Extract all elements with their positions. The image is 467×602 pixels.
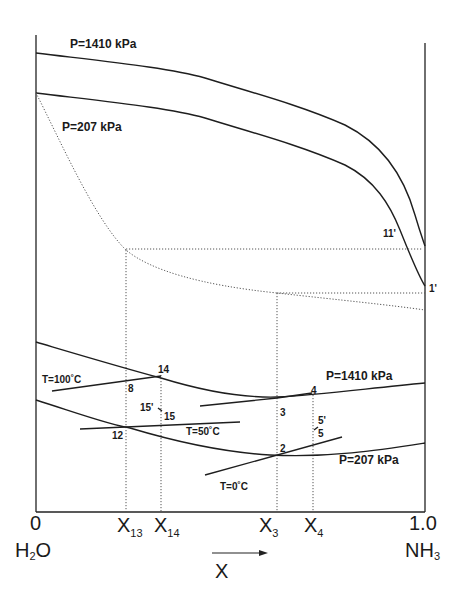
- svg-text:H2O: H2O: [15, 539, 51, 562]
- label-isotherm-0c: T=0˚C: [220, 481, 248, 492]
- label-isotherm-100c: T=100˚C: [42, 374, 81, 385]
- label-liquid-1410kpa: P=1410 kPa: [326, 369, 393, 383]
- state-point-3: 3: [280, 407, 286, 418]
- plot-frame: [36, 35, 425, 512]
- state-point-4: 4: [311, 385, 317, 396]
- isotherm-50c-right: [200, 393, 312, 406]
- species-label-water: H2O: [15, 539, 51, 562]
- vapor-curve-1410kpa: [36, 53, 425, 246]
- state-point-14: 14: [158, 364, 170, 375]
- label-isotherm-50c: T=50˚C: [186, 426, 220, 437]
- composition-tick-x14: X14: [154, 514, 180, 539]
- label-liquid-207kpa: P=207 kPa: [339, 453, 399, 467]
- x-axis-direction-arrow: [212, 550, 268, 556]
- state-point-5: 5: [318, 428, 324, 439]
- state-point-15: 15: [164, 411, 176, 422]
- state-point-2: 2: [280, 443, 286, 454]
- species-label-ammonia: NH3: [405, 539, 440, 562]
- x-axis-tick-0: 0: [30, 512, 41, 534]
- composition-tick-x13: X13: [117, 514, 143, 539]
- svg-text:NH3: NH3: [405, 539, 440, 562]
- svg-text:X14: X14: [154, 514, 180, 539]
- composition-tick-x3: X3: [259, 514, 278, 539]
- svg-text:X13: X13: [117, 514, 143, 539]
- ammonia-water-enthalpy-diagram: P=1410 kPa P=207 kPa P=1410 kPa P=207 kP…: [0, 0, 467, 602]
- isotherm-0c: [205, 437, 342, 475]
- state-point-15prime: 15': [140, 402, 154, 413]
- composition-tick-x4: X4: [304, 514, 323, 539]
- state-point-5prime: 5': [318, 415, 326, 426]
- state-point-1prime: 1': [429, 283, 437, 294]
- svg-text:X4: X4: [304, 514, 323, 539]
- state-point-8: 8: [128, 383, 134, 394]
- x-axis-label: X: [215, 560, 228, 582]
- svg-text:X3: X3: [259, 514, 278, 539]
- label-vapor-207kpa: P=207 kPa: [62, 120, 122, 134]
- label-vapor-1410kpa: P=1410 kPa: [70, 37, 137, 51]
- state-point-11prime: 11': [383, 228, 396, 239]
- x-axis-tick-1: 1.0: [409, 512, 437, 534]
- state-point-12: 12: [112, 430, 124, 441]
